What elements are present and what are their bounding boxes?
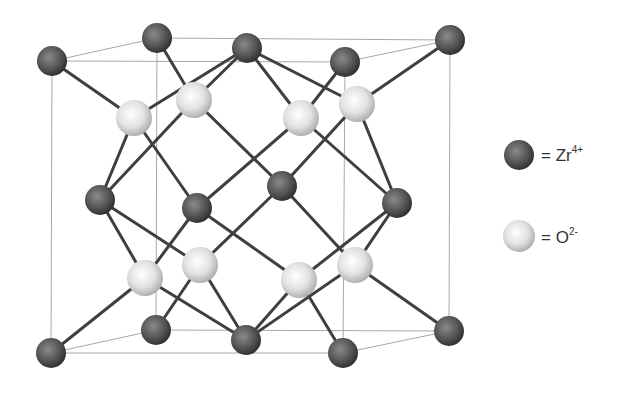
legend-zr-equals: =: [541, 146, 556, 165]
cell-edge: [156, 330, 449, 331]
oxygen-atom: [281, 262, 317, 298]
cell-edge: [51, 61, 52, 353]
cell-edge: [157, 38, 450, 40]
zirconium-atom: [36, 338, 66, 368]
cell-edge: [52, 38, 157, 61]
zirconium-atom: [37, 46, 67, 76]
legend-o-symbol: O: [556, 228, 569, 247]
legend-o-equals: =: [541, 228, 556, 247]
zirconium-atom: [231, 325, 261, 355]
zirconium-atom: [330, 47, 360, 77]
legend-zr-symbol: Zr: [556, 146, 572, 165]
legend-zr-label: = Zr4+: [541, 144, 583, 166]
zirconium-atom: [434, 316, 464, 346]
cell-edge: [343, 331, 449, 353]
zirconium-atom: [85, 185, 115, 215]
legend-markers: [503, 140, 535, 252]
bond: [51, 278, 145, 353]
legend-o-icon: [503, 220, 535, 252]
zirconium-atom: [328, 338, 358, 368]
zirconium-atom: [182, 193, 212, 223]
oxygen-atom: [176, 82, 212, 118]
oxygen-atom: [116, 100, 152, 136]
zirconium-atom: [435, 25, 465, 55]
cell-edge: [52, 61, 345, 62]
legend-zr-charge: 4+: [572, 144, 583, 155]
zirconium-atom: [141, 315, 171, 345]
zirconium-atom: [232, 33, 262, 63]
legend-o-label: = O2-: [541, 226, 578, 248]
bond: [301, 118, 397, 203]
zirconium-atom: [267, 171, 297, 201]
cell-edge: [449, 40, 450, 331]
legend-zr-icon: [504, 140, 534, 170]
oxygen-atom: [182, 247, 218, 283]
oxygen-atom: [283, 100, 319, 136]
legend-o-charge: 2-: [569, 226, 578, 237]
oxygen-atom: [127, 260, 163, 296]
zro2-lattice: [0, 0, 633, 395]
zirconium-atom: [382, 188, 412, 218]
zirconium-atom: [142, 23, 172, 53]
oxygen-atom: [337, 247, 373, 283]
oxygen-atom: [339, 86, 375, 122]
crystal-structure-diagram: = Zr4+ = O2-: [0, 0, 633, 395]
